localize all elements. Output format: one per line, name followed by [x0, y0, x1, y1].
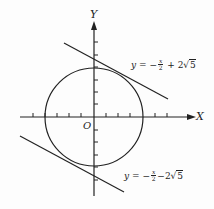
- eq-plus: +: [167, 60, 175, 70]
- eq-minus: −: [142, 171, 150, 181]
- equation-lower-tangent: y = − x2 −2√5: [124, 169, 183, 182]
- eq-minus-2: −: [157, 171, 165, 181]
- y-axis-arrow-icon: [91, 21, 97, 30]
- origin-label: O: [83, 121, 91, 131]
- x-axis-label: X: [196, 111, 204, 122]
- eq-fraction: x2: [158, 58, 163, 71]
- y-axis-label: Y: [90, 9, 97, 20]
- equation-upper-tangent: y = − x2 + 2√5: [131, 58, 196, 71]
- eq-equals: =: [139, 60, 147, 70]
- eq-lhs: y: [124, 171, 129, 181]
- diagram-canvas: Y X O y = − x2 + 2√5 y = − x2 −2√5: [0, 0, 214, 209]
- eq-minus: −: [149, 60, 157, 70]
- x-axis-arrow-icon: [187, 114, 196, 120]
- eq-lhs: y: [131, 60, 136, 70]
- tangent-line-upper: [64, 43, 168, 99]
- eq-fraction: x2: [151, 169, 156, 182]
- eq-radicand: 5: [189, 59, 196, 70]
- eq-radicand: 5: [176, 170, 183, 181]
- eq-equals: =: [132, 171, 140, 181]
- eq-denominator: 2: [152, 176, 156, 182]
- eq-denominator: 2: [159, 65, 163, 71]
